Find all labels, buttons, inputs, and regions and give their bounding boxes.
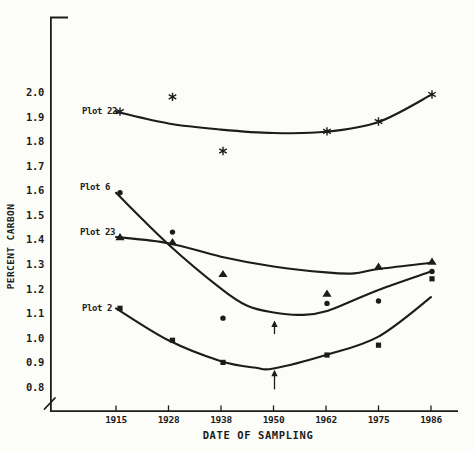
y-tick-label: 0.8 (14, 381, 44, 393)
x-tick-label: 1962 (304, 415, 348, 426)
plot-22-point (219, 147, 227, 155)
plot-2-point (170, 338, 175, 343)
plot-6-point (170, 229, 175, 234)
plot-2-point (220, 360, 225, 365)
y-tick-label: 1.9 (14, 111, 44, 123)
y-tick-label: 1.0 (14, 332, 44, 344)
plot-6-point (117, 190, 122, 195)
plot-22-point (428, 90, 436, 98)
x-axis-title: DATE OF SAMPLING (156, 429, 360, 441)
plot-23-point (427, 258, 436, 265)
x-tick-label: 1986 (409, 415, 453, 426)
x-tick-label: 1938 (199, 415, 243, 426)
plot-6-point (220, 315, 225, 320)
x-tick-label: 1915 (94, 415, 138, 426)
x-tick-label: 1950 (252, 415, 296, 426)
series-label-plot-6: Plot 6 (80, 182, 110, 192)
chart-layer (115, 90, 436, 411)
series-label-plot-2: Plot 2 (82, 303, 112, 313)
chart-canvas (0, 0, 473, 452)
plot-6-point (324, 301, 329, 306)
plot-23-point (168, 238, 177, 245)
y-axis-break-icon (45, 398, 56, 409)
y-tick-label: 1.8 (14, 135, 44, 147)
curve-plot-6 (116, 193, 431, 315)
y-tick-label: 1.7 (14, 160, 44, 172)
plot-6-point (429, 269, 434, 274)
y-tick-label: 2.0 (14, 86, 44, 98)
up-arrow-head-icon (271, 370, 277, 377)
plot-23-point (218, 270, 227, 277)
y-tick-label: 1.4 (14, 233, 44, 245)
x-tick-label: 1928 (147, 415, 191, 426)
y-tick-label: 1.2 (14, 283, 44, 295)
series-label-plot-22: Plot 22 (82, 106, 117, 116)
plot-23-point (374, 263, 383, 270)
y-tick-label: 0.9 (14, 356, 44, 368)
y-axis-line (51, 18, 68, 412)
y-tick-label: 1.6 (14, 184, 44, 196)
up-arrow-head-icon (271, 321, 277, 328)
plot-22-point (169, 93, 177, 101)
y-tick-label: 1.3 (14, 258, 44, 270)
curve-plot-2 (116, 297, 431, 369)
plot-23-point (322, 290, 331, 297)
plot-2-point (324, 352, 329, 357)
plot-2-point (429, 276, 434, 281)
figure: 2.01.91.81.71.61.51.41.31.21.11.00.90.8 … (0, 0, 473, 452)
y-tick-label: 1.1 (14, 307, 44, 319)
series-label-plot-23: Plot 23 (80, 227, 115, 237)
y-axis-title: PERCENT CARBON (6, 186, 19, 308)
curve-plot-22 (116, 95, 431, 133)
y-tick-label: 1.5 (14, 209, 44, 221)
x-tick-label: 1975 (357, 415, 401, 426)
plot-2-point (376, 343, 381, 348)
curve-plot-23 (116, 237, 431, 274)
plot-2-point (117, 306, 122, 311)
plot-6-point (376, 298, 381, 303)
